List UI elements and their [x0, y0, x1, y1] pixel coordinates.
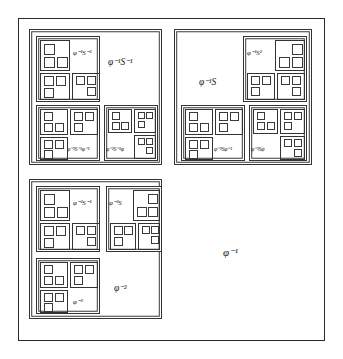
leaf-square	[200, 140, 209, 149]
leafgroup-e2	[215, 109, 243, 135]
leaf-square	[56, 76, 66, 86]
leaf-square	[44, 140, 53, 149]
leafgroup-e3	[185, 137, 213, 160]
leafgroup-d1	[275, 40, 305, 71]
leaf-square	[151, 236, 159, 244]
leafgroup-d2	[247, 73, 275, 100]
leaf-square	[44, 194, 55, 205]
subregion-bottom-left-b: φ⁻²S	[106, 186, 162, 252]
label-top-left-bl: φ⁻¹S⁻¹φ⁻¹	[67, 146, 89, 152]
leaf-square	[189, 150, 198, 159]
label-bottom-left-low: φ⁻³	[73, 299, 82, 306]
label-top-right-bl: φ⁻¹Sφ⁻¹	[214, 146, 232, 152]
leaf-square	[44, 123, 53, 132]
leaf-square	[200, 123, 209, 132]
leaf-square	[87, 237, 96, 246]
leaf-square	[76, 76, 85, 85]
leaf-square	[284, 122, 292, 130]
subregion-top-right-a: φ⁻¹S²	[243, 36, 307, 102]
leaf-square	[44, 303, 53, 312]
label-bottom-left-inner: φ⁻²S⁻¹	[73, 200, 91, 207]
leaf-square	[87, 226, 96, 235]
label-bottom-left-region: φ⁻²	[114, 284, 127, 294]
leaf-square	[292, 87, 301, 96]
subregion-bottom-left-c: φ⁻³	[36, 258, 100, 314]
label-top-right-inner: φ⁻¹S²	[247, 50, 262, 57]
leaf-square	[114, 237, 123, 246]
leaf-square	[251, 76, 260, 85]
leaf-square	[262, 76, 271, 85]
leaf-square	[44, 44, 55, 55]
leaf-square	[44, 57, 55, 68]
leaf-square	[138, 138, 145, 145]
outer-frame: φ⁻¹S⁻¹ φ⁻¹S⁻²	[18, 18, 325, 341]
leaf-square	[44, 293, 53, 302]
subregion-top-left-b: φ⁻¹S⁻¹φ⁻¹	[36, 105, 100, 161]
leaf-square	[257, 112, 265, 120]
subregion-top-right-c: φ⁻¹Sφ	[249, 105, 307, 161]
region-bottom-left: φ⁻² φ⁻²S⁻¹	[29, 179, 162, 319]
subregion-top-left-c: φ⁻¹S⁻¹φ	[104, 105, 158, 161]
leaf-square	[85, 265, 94, 274]
leafgroup-f1	[253, 109, 278, 134]
leaf-square	[292, 76, 301, 85]
leaf-square	[137, 207, 147, 217]
region-top-right: φ⁻¹S φ⁻¹S²	[174, 29, 312, 165]
leaf-square	[112, 112, 120, 120]
leafgroup-i2	[70, 262, 98, 288]
leafgroup-h1	[133, 190, 160, 221]
leaf-square	[257, 122, 265, 130]
leaf-square	[294, 139, 302, 147]
leaf-square	[55, 293, 64, 302]
leafgroup-c2	[134, 109, 156, 133]
leafgroup-f2	[280, 109, 305, 134]
subregion-top-right-b: φ⁻¹Sφ⁻¹	[181, 105, 245, 161]
leafgroup-c3	[134, 135, 156, 159]
leafgroup-g2	[40, 223, 70, 250]
leafgroup-i3	[40, 290, 68, 313]
leaf-square	[284, 112, 292, 120]
leaf-square	[85, 112, 94, 121]
leaf-square	[281, 76, 290, 85]
leaf-square	[44, 150, 53, 159]
label-top-left-inner: φ⁻¹S⁻²	[73, 50, 91, 57]
leaf-square	[57, 57, 68, 68]
leafgroup-d3	[277, 73, 305, 100]
leaf-square	[219, 112, 228, 121]
leaf-square	[121, 122, 129, 130]
leaf-square	[76, 226, 85, 235]
leaf-square	[124, 226, 133, 235]
leaf-square	[251, 87, 260, 96]
leaf-square	[44, 238, 54, 248]
subregion-top-left-a: φ⁻¹S⁻²	[36, 36, 100, 102]
label-top-right-br: φ⁻¹Sφ	[251, 146, 264, 152]
leaf-square	[114, 226, 123, 235]
leaf-square	[87, 76, 96, 85]
leafgroup-c1	[108, 109, 132, 133]
leaf-square	[44, 207, 55, 218]
leaf-square	[44, 76, 54, 86]
leaf-square	[74, 265, 83, 274]
figure-canvas: φ⁻¹S⁻¹ φ⁻¹S⁻²	[0, 0, 343, 359]
leafgroup-h3	[138, 223, 160, 250]
leaf-square	[142, 226, 150, 234]
leaf-square	[44, 265, 53, 274]
leaf-square	[146, 147, 153, 154]
leafgroup-f3	[280, 136, 305, 160]
leaf-square	[189, 140, 198, 149]
region-top-left: φ⁻¹S⁻¹ φ⁻¹S⁻²	[29, 29, 162, 165]
leaf-square	[292, 44, 303, 55]
leaf-square	[74, 112, 83, 121]
leaf-square	[112, 122, 120, 130]
leaf-square	[55, 276, 64, 285]
leaf-square	[44, 276, 53, 285]
subregion-bottom-left-a: φ⁻²S⁻¹	[36, 186, 100, 252]
leaf-square	[148, 194, 158, 204]
label-top-right-region: φ⁻¹S	[199, 78, 216, 88]
label-top-left-br: φ⁻¹S⁻¹φ	[106, 146, 124, 152]
leaf-square	[44, 112, 53, 121]
leaf-square	[138, 112, 145, 119]
label-top-left-region: φ⁻¹S⁻¹	[108, 58, 133, 68]
leaf-square	[151, 226, 159, 234]
leafgroup-i1	[40, 262, 68, 288]
